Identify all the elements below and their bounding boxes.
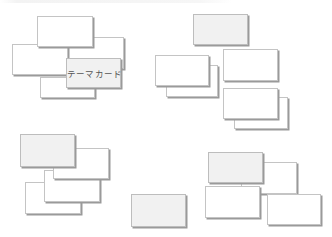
highlight-card[interactable] [208, 152, 263, 183]
card-cluster-bottom-right [0, 0, 332, 237]
card[interactable] [205, 186, 260, 218]
card[interactable] [267, 194, 321, 225]
